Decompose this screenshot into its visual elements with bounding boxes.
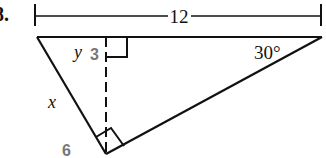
side-x-value: 6 — [62, 142, 71, 158]
problem-number: 8. — [0, 3, 9, 25]
top-length-label: 12 — [170, 6, 189, 27]
side-x-label: x — [47, 92, 56, 112]
segment-y-label: y — [72, 42, 82, 62]
triangle-diagram: 8. 12 y 3 x 6 30° — [0, 0, 326, 158]
angle-label: 30° — [254, 42, 281, 63]
right-angle-marker-top — [106, 37, 127, 57]
segment-y-value: 3 — [90, 46, 99, 63]
